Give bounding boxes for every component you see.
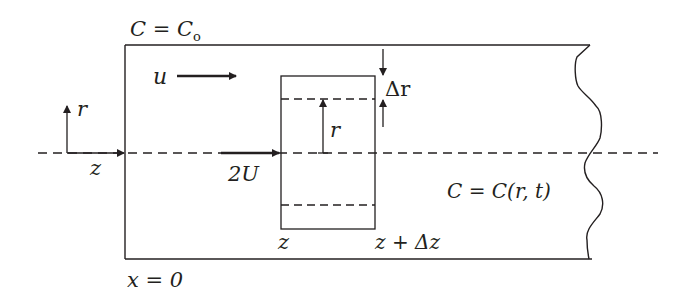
coordinate-axes	[67, 106, 124, 153]
tube-break-line	[575, 45, 602, 259]
label-inlet-position: x = 0	[127, 268, 183, 292]
label-inlet-concentration: C = Co	[130, 17, 201, 44]
tube-flow-diagram: C = Co u Δr r r z 2U C = C(r, t) z z + Δ…	[0, 0, 681, 308]
label-radius-inner: r	[330, 118, 342, 142]
label-z-axis: z	[89, 156, 102, 180]
label-velocity-u: u	[153, 64, 167, 89]
label-r-axis: r	[77, 97, 89, 121]
label-element-end: z + Δz	[374, 230, 440, 254]
label-concentration-field: C = C(r, t)	[447, 179, 551, 203]
label-delta-r: Δr	[385, 77, 411, 101]
label-centerline-velocity: 2U	[227, 162, 260, 186]
label-element-start: z	[277, 230, 290, 254]
